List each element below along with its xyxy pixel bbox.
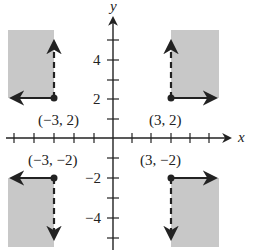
vertex-point: [168, 95, 175, 102]
shaded-region-upper-right: [171, 30, 219, 98]
y-axis-label: y: [108, 0, 117, 14]
shaded-region-upper-left: [8, 30, 54, 98]
y-tick-label-neg2: −2: [85, 170, 101, 186]
shaded-region-lower-right: [171, 178, 219, 247]
y-axis: y 4 2 −2 −4: [85, 0, 119, 250]
point-label-upper-right: (3, 2): [149, 112, 182, 129]
y-tick-label-neg4: −4: [85, 210, 101, 226]
y-tick-label-2: 2: [93, 91, 101, 107]
x-axis: x: [6, 129, 245, 145]
point-label-lower-right: (3, −2): [140, 152, 181, 169]
point-label-lower-left: (−3, −2): [28, 152, 77, 169]
coordinate-plane: x y 4 2 −2 −4 (−3, 2) (3, 2: [0, 0, 254, 250]
vertex-point: [51, 175, 58, 182]
x-axis-label: x: [237, 129, 245, 145]
y-tick-label-4: 4: [93, 52, 101, 68]
vertex-point: [168, 175, 175, 182]
point-label-upper-left: (−3, 2): [38, 112, 79, 129]
vertex-point: [51, 95, 58, 102]
shaded-region-lower-left: [8, 178, 54, 247]
